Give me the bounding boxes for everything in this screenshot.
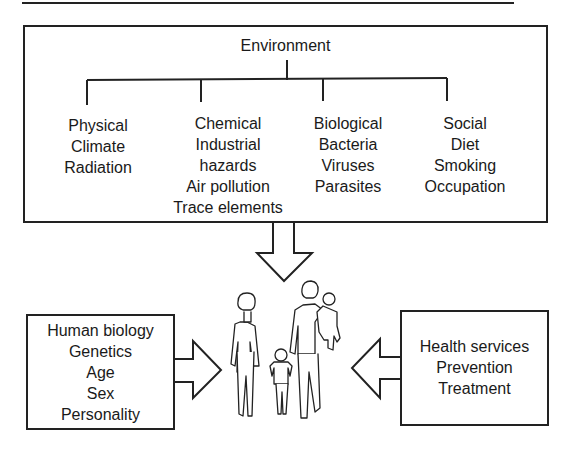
family-illustration-icon bbox=[231, 281, 340, 418]
human-biology-heading: Human biology bbox=[28, 320, 173, 341]
health-services-item: Treatment bbox=[402, 378, 547, 399]
health-services-list: Health services Prevention Treatment bbox=[402, 336, 547, 399]
health-services-item: Prevention bbox=[402, 357, 547, 378]
human-biology-box: Human biology Genetics Age Sex Personali… bbox=[26, 314, 175, 430]
human-biology-item: Personality bbox=[28, 404, 173, 425]
human-biology-item: Sex bbox=[28, 383, 173, 404]
down-arrow-icon bbox=[257, 222, 312, 281]
human-biology-item: Genetics bbox=[28, 341, 173, 362]
health-services-box: Health services Prevention Treatment bbox=[400, 310, 549, 426]
human-biology-item: Age bbox=[28, 362, 173, 383]
health-services-heading: Health services bbox=[402, 336, 547, 357]
right-arrow-icon bbox=[174, 341, 221, 398]
left-arrow-icon bbox=[352, 339, 401, 398]
human-biology-list: Human biology Genetics Age Sex Personali… bbox=[28, 320, 173, 425]
